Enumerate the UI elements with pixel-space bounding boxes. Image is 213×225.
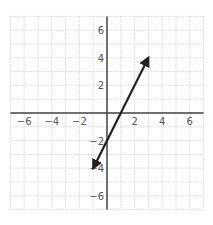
y-tick-label: 2 [98,80,104,91]
coordinate-plane: −6−4−2246642−2−4−6 [0,0,213,225]
y-tick-label: −6 [89,191,104,202]
y-tick-label: 6 [98,25,104,36]
x-tick-label: 2 [131,116,137,127]
axes [10,16,203,209]
x-tick-label: −2 [72,116,87,127]
y-tick-label: 4 [98,53,104,64]
x-tick-label: 6 [187,116,193,127]
x-tick-label: 4 [159,116,165,127]
y-tick-label: −4 [89,163,104,174]
x-tick-label: −6 [17,116,32,127]
y-tick-label: −2 [89,136,104,147]
x-tick-label: −4 [44,116,59,127]
